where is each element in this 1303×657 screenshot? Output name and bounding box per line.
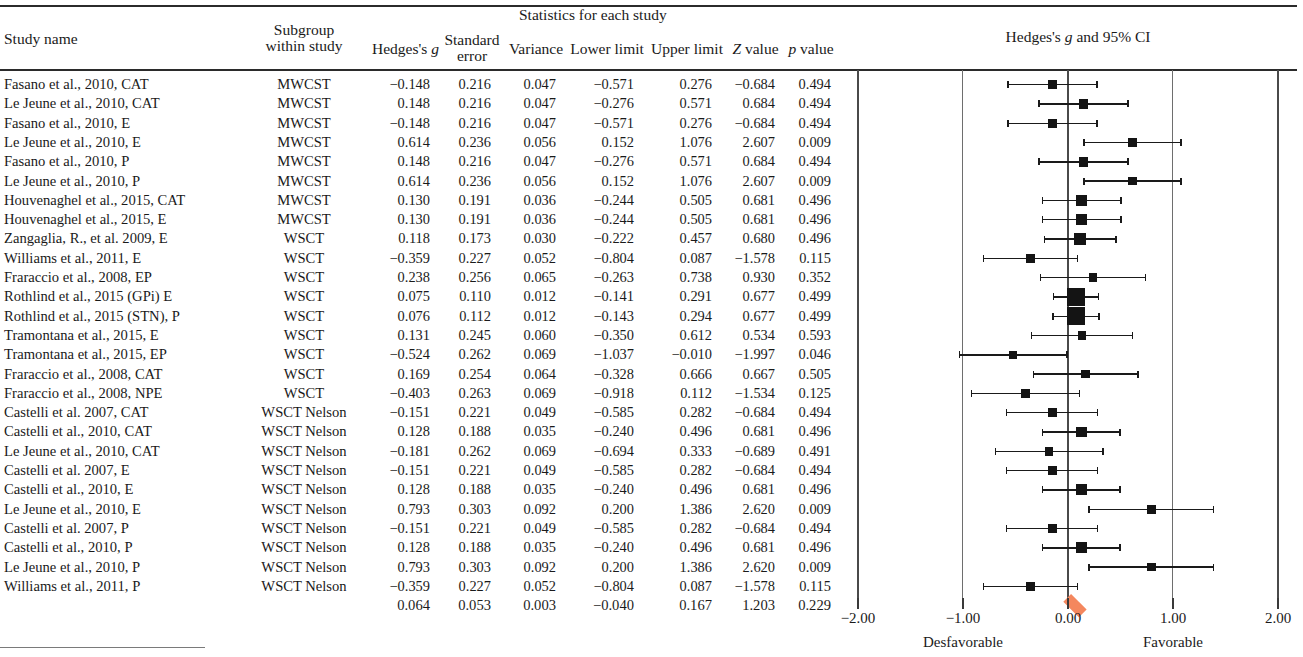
effect-marker [1076, 214, 1087, 225]
ci-line [1053, 296, 1098, 297]
gridline-neg1 [962, 70, 963, 598]
effect-marker [1081, 370, 1090, 379]
cell-upper-limit: −0.010 [646, 345, 712, 364]
cell-p-value: 0.496 [783, 480, 831, 499]
effect-marker [1078, 331, 1087, 340]
cell-standard-error: 0.227 [441, 249, 491, 268]
cell-variance: 0.065 [503, 268, 556, 287]
cell-p-value: 0.494 [783, 403, 831, 422]
ci-line [1043, 547, 1120, 548]
column-header-subgroup-line2: within study [240, 38, 368, 54]
effect-marker [1048, 119, 1057, 128]
cell-upper-limit: 0.496 [646, 422, 712, 441]
ci-cap-left [1040, 274, 1041, 281]
cell-upper-limit: 0.457 [646, 229, 712, 248]
cell-p-value: 0.494 [783, 94, 831, 113]
cell-hedges-g: 0.128 [368, 480, 430, 499]
ci-cap-left [1083, 139, 1084, 146]
cell-upper-limit: 0.505 [646, 210, 712, 229]
cell-study-name: Le Jeune et al., 2010, P [4, 558, 140, 577]
cell-hedges-g: −0.181 [368, 442, 430, 461]
cell-subgroup: MWCST [240, 114, 368, 133]
axis-tick-label-neg1: −1.00 [918, 610, 1008, 627]
cell-p-value: 0.494 [783, 519, 831, 538]
summary-diamond [1063, 594, 1086, 617]
cell-study-name: Castelli et al., 2010, CAT [4, 422, 152, 441]
cell-variance: 0.060 [503, 326, 556, 345]
cell-subgroup: WSCT Nelson [240, 500, 368, 519]
ci-line [1039, 103, 1128, 104]
cell-standard-error: 0.263 [441, 384, 491, 403]
cell-z-value: 0.677 [727, 307, 775, 326]
effect-marker [1076, 427, 1087, 438]
table-row: Tramontana et al., 2015, EPWSCT−0.5240.2… [0, 345, 858, 364]
cell-upper-limit: 0.167 [646, 596, 712, 615]
ci-cap-left [1038, 100, 1039, 107]
ci-line [1007, 412, 1098, 413]
cell-lower-limit: −0.585 [566, 519, 634, 538]
table-row: Williams et al., 2011, PWSCT Nelson−0.35… [0, 577, 858, 596]
ci-cap-left [983, 255, 984, 262]
cell-lower-limit: −1.037 [566, 345, 634, 364]
table-row: Fasano et al., 2010, EMWCST−0.1480.2160.… [0, 114, 858, 133]
effect-marker [1147, 505, 1156, 514]
cell-z-value: 0.681 [727, 480, 775, 499]
cell-upper-limit: 1.386 [646, 500, 712, 519]
table-row: Rothlind et al., 2015 (GPi) EWSCT0.0750.… [0, 287, 858, 306]
cell-variance: 0.036 [503, 210, 556, 229]
cell-lower-limit: −0.350 [566, 326, 634, 345]
ci-line [1007, 528, 1098, 529]
ci-line [1089, 509, 1214, 510]
effect-marker [1048, 80, 1057, 89]
table-row: Rothlind et al., 2015 (STN), PWSCT0.0760… [0, 307, 858, 326]
cell-upper-limit: 0.333 [646, 442, 712, 461]
cell-hedges-g: 0.131 [368, 326, 430, 345]
ci-cap-right [1097, 525, 1098, 532]
cell-z-value: 2.620 [727, 558, 775, 577]
ci-cap-left [1042, 429, 1043, 436]
table-row: Le Jeune et al., 2010, PWSCT Nelson0.793… [0, 558, 858, 577]
cell-subgroup: WSCT [240, 268, 368, 287]
gridline-0 [1067, 70, 1068, 598]
column-header-se-line2: error [441, 48, 503, 64]
cell-study-name: Fasano et al., 2010, E [4, 114, 130, 133]
column-header-study-name: Study name [4, 30, 78, 48]
cell-variance: 0.047 [503, 152, 556, 171]
ci-cap-right [1137, 371, 1138, 378]
table-row: Williams et al., 2011, EWSCT−0.3590.2270… [0, 249, 858, 268]
cell-variance: 0.069 [503, 384, 556, 403]
cell-p-value: 0.499 [783, 287, 831, 306]
cell-subgroup: WSCT Nelson [240, 422, 368, 441]
column-header-p-value: p value [783, 40, 839, 58]
cell-standard-error: 0.191 [441, 191, 491, 210]
table-row: Houvenaghel et al., 2015, EMWCST0.1300.1… [0, 210, 858, 229]
cell-upper-limit: 0.666 [646, 365, 712, 384]
cell-subgroup: WSCT [240, 384, 368, 403]
cell-subgroup: WSCT [240, 365, 368, 384]
cell-variance: 0.047 [503, 94, 556, 113]
effect-marker [1076, 542, 1087, 553]
cell-hedges-g: 0.128 [368, 538, 430, 557]
cell-z-value: 0.681 [727, 422, 775, 441]
ci-cap-right [1098, 313, 1099, 320]
axis-label-favorable: Favorable [1093, 634, 1253, 651]
cell-variance: 0.035 [503, 480, 556, 499]
cell-variance: 0.003 [503, 596, 556, 615]
cell-hedges-g: −0.148 [368, 114, 430, 133]
cell-subgroup: WSCT Nelson [240, 519, 368, 538]
table-row: Tramontana et al., 2015, EWSCT0.1310.245… [0, 326, 858, 345]
cell-variance: 0.069 [503, 345, 556, 364]
cell-standard-error: 0.254 [441, 365, 491, 384]
effect-marker [1067, 307, 1085, 325]
cell-subgroup: MWCST [240, 152, 368, 171]
plot-title: Hedges's g and 95% CI [860, 28, 1296, 46]
cell-lower-limit: −0.328 [566, 365, 634, 384]
table-row: Le Jeune et al., 2010, EMWCST0.6140.2360… [0, 133, 858, 152]
cell-upper-limit: 1.076 [646, 172, 712, 191]
cell-study-name: Castelli et al., 2010, P [4, 538, 133, 557]
cell-upper-limit: 0.087 [646, 249, 712, 268]
cell-z-value: 0.681 [727, 210, 775, 229]
cell-hedges-g: 0.130 [368, 191, 430, 210]
cell-z-value: −0.684 [727, 461, 775, 480]
ci-cap-left [1042, 486, 1043, 493]
